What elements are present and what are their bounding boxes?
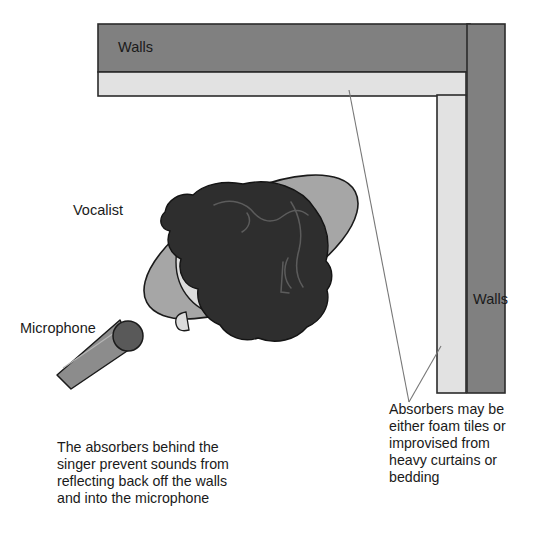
caption-line: The absorbers behind the (57, 439, 219, 455)
absorber-note-line: bedding (389, 469, 440, 485)
caption-line: and into the microphone (57, 490, 209, 506)
absorber-note-line: either foam tiles or (389, 418, 506, 434)
diagram-caption-text: The absorbers behind the singer prevent … (57, 439, 233, 506)
absorber-note-text: Absorbers may be either foam tiles or im… (389, 401, 510, 485)
top-wall-label: Walls (118, 39, 153, 55)
top-wall-shape (98, 24, 470, 72)
absorber-note-line: improvised from (389, 435, 490, 451)
leader-lines-group (349, 90, 441, 402)
vertical-absorber-panel (437, 95, 466, 393)
microphone-head-shape (113, 321, 143, 351)
vocalist-figure (122, 146, 379, 349)
horizontal-absorber-panel (98, 72, 466, 96)
absorber-note-line: heavy curtains or (389, 452, 497, 468)
right-wall-label: Walls (473, 291, 508, 307)
microphone-label: Microphone (20, 320, 96, 336)
right-wall-shape (467, 24, 505, 393)
caption-line: singer prevent sounds from (57, 456, 229, 472)
vocalist-label: Vocalist (73, 202, 123, 218)
caption-line: reflecting back off the walls (57, 473, 227, 489)
acoustic-treatment-diagram: Walls Walls (0, 0, 541, 538)
absorber-note-line: Absorbers may be (389, 401, 504, 417)
diagram-canvas: Walls Walls (0, 0, 541, 538)
leader-line-to-horizontal-absorber (349, 90, 409, 402)
